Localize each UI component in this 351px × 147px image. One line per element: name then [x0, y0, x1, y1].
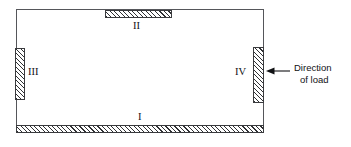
- load-direction-caption: Direction of load: [294, 62, 351, 85]
- block-label-ii: II: [133, 21, 140, 32]
- caption-line-2: of load: [294, 74, 351, 86]
- block-ii-top: [105, 10, 172, 18]
- block-label-iv: IV: [235, 67, 246, 78]
- block-iv-right: [253, 47, 264, 103]
- block-label-iii: III: [28, 67, 39, 78]
- block-label-i: I: [138, 112, 142, 123]
- block-i-bottom: [16, 125, 264, 134]
- engineering-diagram: I II III IV Direction of load: [0, 0, 351, 147]
- load-direction-arrow-icon: [266, 65, 291, 77]
- caption-line-1: Direction: [294, 62, 332, 73]
- block-iii-left: [15, 48, 25, 100]
